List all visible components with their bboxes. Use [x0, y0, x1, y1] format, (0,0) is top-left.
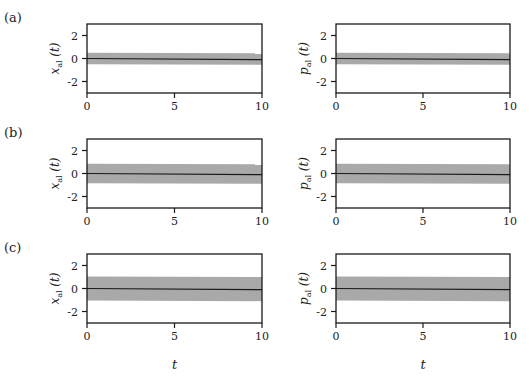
y-tick-label: 2: [320, 145, 327, 158]
x-tick-label: 10: [255, 330, 269, 343]
x-tick-label: 5: [420, 100, 427, 113]
x-tick-label: 5: [420, 330, 427, 343]
figure: (a)(b)(c)20-20510xal (t)20-20510pal (t)2…: [0, 0, 529, 380]
panel-label: (b): [4, 125, 22, 140]
subplot-b-right: 20-20510pal (t): [297, 139, 517, 228]
x-tick-label: 10: [255, 100, 269, 113]
y-axis-label: xal (t): [48, 42, 64, 74]
y-axis-label: xal (t): [48, 157, 64, 189]
subplot-a-left: 20-20510xal (t): [48, 24, 269, 113]
x-tick-label: 10: [255, 215, 269, 228]
y-tick-label: 2: [320, 260, 327, 273]
y-tick-label: -2: [67, 306, 78, 319]
y-tick-label: -2: [67, 76, 78, 89]
y-axis-label: pal (t): [297, 157, 313, 190]
y-tick-label: 0: [71, 283, 78, 296]
x-axis-label: t: [420, 357, 426, 372]
y-tick-label: -2: [316, 306, 327, 319]
panel-label: (c): [4, 240, 21, 255]
panel-label: (a): [4, 10, 22, 25]
y-tick-label: 0: [71, 168, 78, 181]
subplot-a-right: 20-20510pal (t): [297, 24, 517, 113]
y-tick-label: 0: [71, 53, 78, 66]
y-tick-label: 0: [320, 53, 327, 66]
y-axis-label: pal (t): [297, 42, 313, 75]
x-tick-label: 0: [333, 330, 340, 343]
subplot-b-left: 20-20510xal (t): [48, 139, 269, 228]
x-tick-label: 5: [171, 215, 178, 228]
y-tick-label: 2: [71, 145, 78, 158]
subplot-c-left: 20-20510xal (t)t: [48, 254, 269, 372]
x-tick-label: 0: [84, 330, 91, 343]
y-tick-label: 2: [320, 30, 327, 43]
y-tick-label: -2: [316, 191, 327, 204]
x-tick-label: 0: [84, 215, 91, 228]
x-tick-label: 0: [333, 100, 340, 113]
x-tick-label: 10: [503, 330, 517, 343]
x-tick-label: 5: [171, 100, 178, 113]
x-tick-label: 5: [171, 330, 178, 343]
x-tick-label: 0: [84, 100, 91, 113]
y-tick-label: 0: [320, 283, 327, 296]
y-tick-label: -2: [316, 76, 327, 89]
subplot-c-right: 20-20510pal (t)t: [297, 254, 517, 372]
x-tick-label: 10: [503, 100, 517, 113]
y-tick-label: 2: [71, 30, 78, 43]
y-tick-label: 0: [320, 168, 327, 181]
y-tick-label: -2: [67, 191, 78, 204]
y-axis-label: pal (t): [297, 272, 313, 305]
y-axis-label: xal (t): [48, 272, 64, 304]
x-tick-label: 0: [333, 215, 340, 228]
x-axis-label: t: [172, 357, 178, 372]
x-tick-label: 5: [420, 215, 427, 228]
y-tick-label: 2: [71, 260, 78, 273]
x-tick-label: 10: [503, 215, 517, 228]
